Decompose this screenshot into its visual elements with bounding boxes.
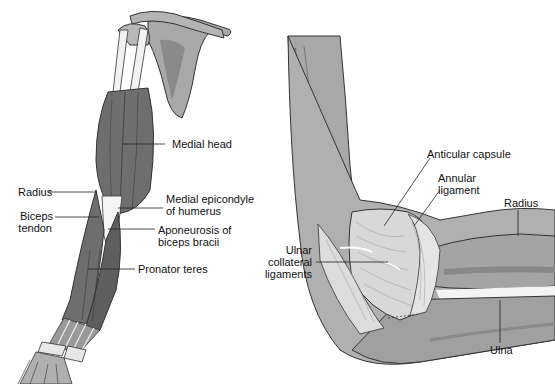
label-annular-ligament-line2: ligament xyxy=(438,184,480,196)
label-aponeurosis-line1: Aponeurosis of xyxy=(158,224,231,236)
label-pronator-teres: Pronator teres xyxy=(138,263,208,275)
label-ulnar-collateral-line1: Ulnar xyxy=(260,244,312,256)
label-radius-left: Radius xyxy=(18,186,52,198)
label-medial-epicondyle-line1: Medial epicondyle xyxy=(166,193,254,205)
label-ulnar-collateral-line3: ligaments xyxy=(256,268,312,280)
label-biceps-tendon-line2: tendon xyxy=(16,222,52,234)
label-ulna: Ulna xyxy=(490,344,513,356)
label-biceps-tendon-line1: Biceps xyxy=(20,210,52,222)
label-radius-right: Radius xyxy=(504,197,538,209)
label-medial-head: Medial head xyxy=(172,138,232,150)
label-ulnar-collateral-line2: collateral xyxy=(256,256,312,268)
label-articular-capsule: Anticular capsule xyxy=(427,148,511,160)
label-annular-ligament-line1: Annular xyxy=(438,172,476,184)
label-medial-epicondyle-line2: of humerus xyxy=(166,205,221,217)
anatomy-figure: Medial head Radius Medial epicondyle of … xyxy=(0,0,555,384)
label-aponeurosis-line2: biceps bracii xyxy=(158,236,219,248)
